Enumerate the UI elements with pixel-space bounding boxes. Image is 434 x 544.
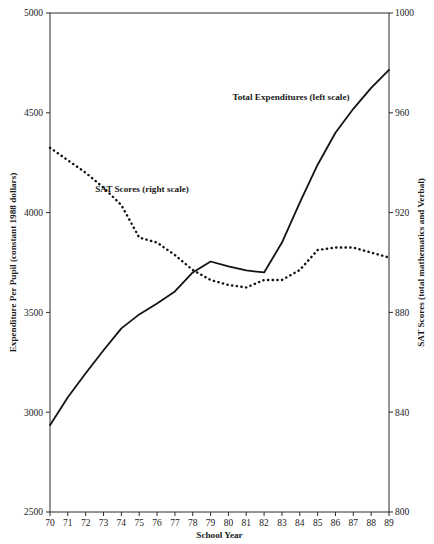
x-axis-tick-label: 85	[313, 518, 323, 528]
series-line-total-expenditures	[50, 70, 389, 425]
series-line-sat-scores	[50, 148, 389, 288]
y2-axis-tick-label: 800	[395, 507, 410, 517]
x-axis-tick-label: 75	[134, 518, 144, 528]
x-axis-tick-label: 70	[45, 518, 55, 528]
x-axis-tick-label: 80	[224, 518, 234, 528]
y2-axis-tick-label: 1000	[395, 8, 414, 18]
x-axis-tick-label: 84	[295, 518, 305, 528]
x-axis-tick-label: 76	[152, 518, 162, 528]
y2-axis-tick-label: 920	[395, 208, 410, 218]
x-axis-tick-label: 74	[117, 518, 127, 528]
x-axis-tick-label: 81	[242, 518, 252, 528]
x-axis-tick-label: 88	[366, 518, 376, 528]
x-axis-title: School Year	[196, 530, 242, 540]
y-axis-title: Expenditure Per Pupil (constant 1988 dol…	[8, 173, 18, 353]
chart-figure: 5000450040003500300025001000960920880840…	[0, 0, 434, 544]
x-axis-tick-label: 83	[277, 518, 287, 528]
y2-axis-title: SAT Scores (total mathematics and Verbal…	[416, 178, 426, 347]
x-axis-tick-label: 86	[331, 518, 341, 528]
x-axis-tick-label: 77	[170, 518, 180, 528]
x-axis-tick-label: 72	[81, 518, 91, 528]
x-axis-tick-label: 79	[206, 518, 216, 528]
y2-axis-tick-label: 960	[395, 108, 410, 118]
line-chart: 5000450040003500300025001000960920880840…	[0, 0, 434, 544]
y-axis-tick-label: 3500	[24, 308, 43, 318]
annotation-total-expenditures: Total Expenditures (left scale)	[232, 92, 349, 102]
x-axis-tick-label: 89	[384, 518, 394, 528]
y2-axis-tick-label: 840	[395, 408, 410, 418]
x-axis-tick-label: 71	[63, 518, 73, 528]
x-axis-tick-label: 73	[99, 518, 109, 528]
plot-frame	[50, 13, 389, 512]
y-axis-tick-label: 4000	[24, 208, 43, 218]
y-axis-tick-label: 2500	[24, 507, 43, 517]
y2-axis-tick-label: 880	[395, 308, 410, 318]
y-axis-tick-label: 5000	[24, 8, 43, 18]
annotation-sat-scores: SAT Scores (right scale)	[95, 184, 189, 194]
y-axis-tick-label: 3000	[24, 408, 43, 418]
x-axis-tick-label: 82	[259, 518, 269, 528]
y-axis-tick-label: 4500	[24, 108, 43, 118]
x-axis-tick-label: 87	[349, 518, 359, 528]
x-axis-tick-label: 78	[188, 518, 198, 528]
